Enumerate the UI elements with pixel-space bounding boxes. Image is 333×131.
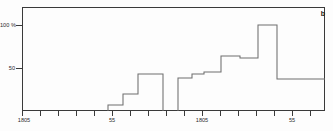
x-tick-16 (310, 111, 311, 116)
x-tick-4 (94, 111, 95, 116)
y-tick-label-100: 100 % (0, 22, 15, 28)
x-tick-15 (292, 111, 293, 116)
x-tick-label-1805-second: 1805 (196, 117, 208, 123)
x-tick-0 (22, 111, 23, 116)
x-tick-14 (274, 111, 275, 116)
x-tick-3 (76, 111, 77, 116)
x-tick-5 (112, 111, 113, 116)
y-tick-50 (16, 68, 23, 69)
panel-label-b: b (321, 10, 325, 17)
x-tick-9 (184, 111, 185, 116)
x-tick-label-1805-first: 1805 (18, 117, 30, 123)
x-tick-6 (130, 111, 131, 116)
y-tick-label-50: 50 (0, 65, 15, 71)
x-tick-12 (238, 111, 239, 116)
x-tick-13 (256, 111, 257, 116)
x-tick-label-55-second: 55 (289, 117, 295, 123)
x-tick-2 (58, 111, 59, 116)
x-tick-10 (202, 111, 203, 116)
x-tick-11 (220, 111, 221, 116)
x-tick-label-55-first: 55 (109, 117, 115, 123)
x-tick-7 (148, 111, 149, 116)
x-tick-8 (166, 111, 167, 116)
x-tick-1 (40, 111, 41, 116)
figure-panel: 100 % 50 1805 55 1805 55 b (0, 0, 333, 131)
y-tick-100 (16, 25, 23, 26)
